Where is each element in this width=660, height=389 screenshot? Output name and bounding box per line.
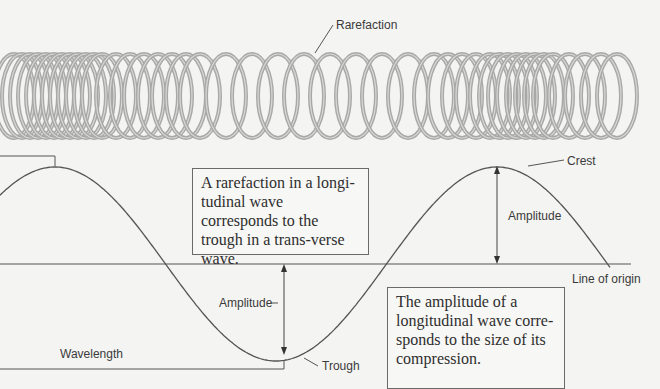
trough-label: Trough (322, 359, 360, 373)
lower-amplitude-label: Amplitude (219, 296, 273, 310)
upper-amplitude-arrowhead-bottom (494, 256, 500, 264)
spring-coil-highlight (232, 54, 272, 138)
crest-label: Crest (567, 154, 596, 168)
spring-coil-highlight (362, 54, 402, 138)
upper-amplitude-label: Amplitude (508, 209, 562, 223)
spring-coil-highlight (388, 54, 428, 138)
amplitude-callout-box: The amplitude of a longitudinal wave cor… (387, 287, 565, 389)
lower-amplitude-arrowhead-top (281, 264, 287, 272)
spring-coil-highlight (206, 54, 246, 138)
wavelength-bracket-top (0, 156, 55, 166)
spring-coil-highlight (284, 54, 324, 138)
spring-coil-highlight (336, 54, 376, 138)
trough-leader-line (304, 358, 318, 366)
line-of-origin-label: Line of origin (572, 272, 641, 286)
wavelength-bracket-bottom (0, 360, 284, 369)
rarefaction-callout-box: A rarefaction in a longi-tudinal wave co… (192, 168, 369, 255)
wavelength-label: Wavelength (60, 347, 123, 361)
slinky-spring (0, 54, 637, 138)
spring-coil-highlight (310, 54, 350, 138)
rarefaction-label: Rarefaction (336, 18, 397, 32)
spring-coil-highlight (258, 54, 298, 138)
crest-leader-line (528, 160, 564, 166)
lower-amplitude-arrowhead-bottom (281, 347, 287, 355)
rarefaction-leader-line (315, 25, 333, 53)
